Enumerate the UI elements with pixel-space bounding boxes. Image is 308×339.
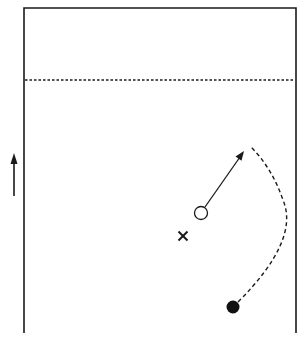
background (0, 0, 308, 339)
open-circle-player (195, 207, 208, 220)
play-diagram: court-play-diagram (0, 0, 308, 339)
filled-circle-player (227, 301, 240, 314)
